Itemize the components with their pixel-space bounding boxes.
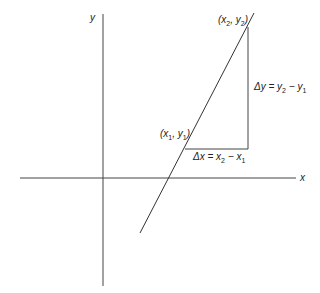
x-axis-label: x bbox=[300, 172, 305, 183]
slope-diagram bbox=[0, 0, 320, 293]
delta-x-label: Δx = x2 − x1 bbox=[193, 151, 245, 164]
delta-y-label: Δy = y2 − y1 bbox=[254, 81, 306, 94]
y-axis-label: y bbox=[90, 12, 95, 23]
sloped-line bbox=[140, 13, 254, 233]
point-1-label: (x1, y1) bbox=[160, 128, 190, 141]
point-2-label: (x2, y2) bbox=[218, 14, 248, 27]
